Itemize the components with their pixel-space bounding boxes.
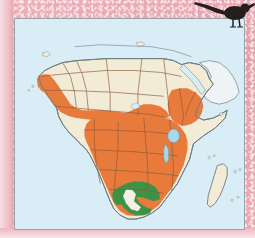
island-reunion: [231, 199, 233, 201]
distribution-map: [14, 18, 245, 230]
island-mascarene-a: [234, 170, 237, 173]
island-socotra: [220, 113, 223, 116]
island-comoros-b: [213, 155, 215, 157]
bird-svg: [193, 0, 255, 29]
bird-illustration: [193, 0, 255, 29]
island-comoros-a: [208, 156, 211, 159]
island-cape-verde-a: [32, 85, 34, 87]
lake-victoria: [168, 129, 180, 143]
bird-head: [240, 3, 249, 12]
bird-bill: [248, 3, 255, 9]
bird-legs: [233, 19, 240, 27]
island-mascarene-b: [239, 168, 241, 170]
map-svg: [15, 19, 244, 229]
page-gutter-left: [0, 0, 13, 238]
island-cape-verde-b: [28, 89, 30, 91]
bird-tail: [194, 2, 227, 15]
guide-page: [0, 0, 255, 238]
island-mauritius: [237, 196, 239, 198]
